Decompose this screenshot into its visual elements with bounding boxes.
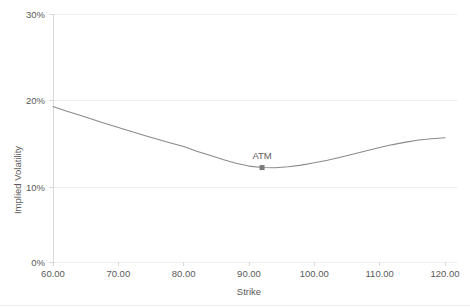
x-tick-label-80: 80.00	[172, 268, 196, 279]
x-tick-label-90: 90.00	[237, 268, 261, 279]
x-axis-title: Strike	[237, 286, 261, 297]
x-tick-label-70: 70.00	[106, 268, 130, 279]
implied-volatility-chart: 30% 20% 10% 0% 60.00 70.00 80.00 90.00 1…	[0, 0, 470, 308]
x-tick-label-110: 110.00	[366, 268, 394, 279]
y-tick-label-10: 10%	[26, 182, 46, 193]
x-tick-label-100: 100.00	[300, 268, 329, 279]
y-tick-label-20: 20%	[26, 95, 46, 106]
atm-label: ATM	[252, 150, 271, 161]
atm-marker-square	[260, 165, 265, 170]
chart-canvas: 30% 20% 10% 0% 60.00 70.00 80.00 90.00 1…	[0, 0, 470, 308]
y-tick-label-0: 0%	[31, 257, 45, 268]
x-tick-label-120: 120.00	[430, 268, 459, 279]
x-tick-label-60: 60.00	[41, 268, 65, 279]
y-axis-title: Implied Volatility	[12, 146, 23, 214]
y-tick-label-30: 30%	[26, 9, 46, 20]
